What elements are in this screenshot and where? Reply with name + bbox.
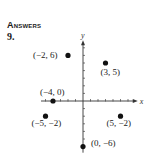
data-point: (5, −2) bbox=[107, 114, 132, 129]
x-axis-arrow-icon bbox=[133, 99, 138, 103]
point-label: (−5, −2) bbox=[32, 118, 62, 128]
data-point: (3, 5) bbox=[101, 60, 121, 77]
x-axis-label: x bbox=[139, 97, 144, 106]
y-axis-arrow-icon bbox=[81, 40, 85, 45]
data-point: (0, −6) bbox=[80, 138, 115, 150]
data-points: (−2, 6)(3, 5)(−4, 0)(−5, −2)(5, −2)(0, −… bbox=[32, 50, 132, 149]
coordinate-plot: xy (−2, 6)(3, 5)(−4, 0)(−5, −2)(5, −2)(0… bbox=[0, 0, 153, 160]
point-label: (−2, 6) bbox=[33, 50, 58, 60]
point-label: (−4, 0) bbox=[40, 87, 65, 97]
point-marker-icon bbox=[65, 53, 70, 58]
data-point: (−2, 6) bbox=[33, 50, 71, 60]
y-axis-label: y bbox=[80, 31, 85, 40]
data-point: (−5, −2) bbox=[32, 114, 62, 129]
point-label: (5, −2) bbox=[107, 118, 132, 128]
point-label: (3, 5) bbox=[101, 67, 121, 77]
point-marker-icon bbox=[103, 60, 108, 65]
point-label: (0, −6) bbox=[91, 138, 116, 148]
point-marker-icon bbox=[50, 98, 55, 103]
point-marker-icon bbox=[80, 144, 85, 149]
